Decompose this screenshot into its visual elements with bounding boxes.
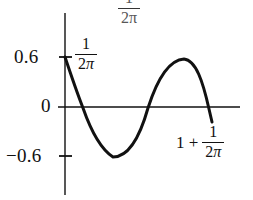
fraction-denominator: 2π (75, 55, 97, 73)
fraction-numerator: 1 (75, 36, 97, 55)
x-endpoint-fraction: 1 2π (202, 124, 224, 161)
x-endpoint-annotation: 1 + 1 2π (176, 124, 224, 161)
top-cut-fraction: 1 2π (118, 0, 140, 27)
top-cut-numerator: 1 (118, 0, 140, 9)
y-tick-label-negative: −0.6 (6, 146, 42, 165)
x-endpoint-lead: 1 + (176, 134, 202, 151)
y-intercept-annotation: 1 2π (75, 36, 97, 73)
one-over-two-pi-fraction: 1 2π (75, 36, 97, 73)
x-endpoint-denominator: 2π (202, 143, 224, 161)
figure-panel: 1 2π 0.6 0 −0.6 1 2π 1 + 1 2π (0, 0, 253, 200)
y-tick-label-positive: 0.6 (14, 47, 39, 66)
plot-canvas (0, 0, 253, 200)
y-tick-label-zero: 0 (41, 96, 51, 115)
top-cut-denominator: 2π (118, 9, 140, 27)
x-endpoint-numerator: 1 (202, 124, 224, 143)
top-cut-caption: 1 2π (118, 0, 140, 27)
